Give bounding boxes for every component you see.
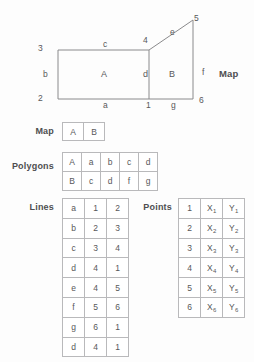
- table-row: A B: [63, 123, 105, 141]
- line-cell: 5: [107, 278, 129, 298]
- page-root: 3 2 4 5 1 6 c e b f a g A d B Map Map Po…: [0, 0, 254, 362]
- node-label-4: 4: [143, 36, 148, 45]
- point-x-cell: X6: [201, 297, 223, 317]
- point-x-cell: X5: [201, 278, 223, 298]
- table-row: a 1 2: [63, 199, 129, 219]
- point-x-cell: X3: [201, 238, 223, 258]
- polygon-cell: b: [101, 153, 120, 172]
- table-row: f 5 6: [63, 297, 129, 317]
- lines-table: a 1 2 b 2 3 c 3 4 d 4 1 e 4 5: [62, 198, 129, 357]
- line-cell: 1: [107, 337, 129, 357]
- line-cell: b: [63, 218, 85, 238]
- point-y-cell: Y4: [223, 258, 245, 278]
- line-cell: 3: [107, 218, 129, 238]
- line-cell: 6: [85, 317, 107, 337]
- line-cell: 4: [107, 238, 129, 258]
- point-x-cell: X1: [201, 199, 223, 219]
- table-row: c 3 4: [63, 238, 129, 258]
- edge-label-g: g: [171, 101, 176, 110]
- table-row: g 6 1: [63, 317, 129, 337]
- map-table: A B: [62, 122, 105, 141]
- edge-label-c: c: [103, 40, 107, 49]
- table-row: A a b c d: [63, 153, 158, 172]
- polygon-cell: a: [82, 153, 101, 172]
- point-id-cell: 4: [179, 258, 201, 278]
- line-cell: 1: [85, 199, 107, 219]
- point-y-cell: Y1: [223, 199, 245, 219]
- table-row: 3 X3 Y3: [179, 238, 245, 258]
- table-row: 6 X6 Y6: [179, 297, 245, 317]
- polygons-table-label: Polygons: [0, 161, 54, 171]
- map-diagram: 3 2 4 5 1 6 c e b f a g A d B Map: [0, 0, 254, 118]
- edge-label-a: a: [103, 101, 108, 110]
- polygon-cell: c: [82, 172, 101, 191]
- face-label-b: B: [169, 70, 175, 79]
- point-y-cell: Y6: [223, 297, 245, 317]
- table-row: 1 X1 Y1: [179, 199, 245, 219]
- point-y-cell: Y2: [223, 218, 245, 238]
- node-label-3: 3: [38, 44, 43, 53]
- table-row: d 4 1: [63, 258, 129, 278]
- line-cell: 5: [85, 297, 107, 317]
- line-cell: 1: [107, 317, 129, 337]
- point-id-cell: 2: [179, 218, 201, 238]
- point-x-cell: X4: [201, 258, 223, 278]
- line-cell: 4: [85, 278, 107, 298]
- polygons-table: A a b c d B c d f g: [62, 152, 158, 191]
- line-cell: 1: [107, 258, 129, 278]
- edge-label-f: f: [202, 68, 204, 77]
- table-row: d 4 1: [63, 337, 129, 357]
- edge-label-b: b: [43, 70, 48, 79]
- edge-label-e: e: [170, 28, 175, 37]
- point-id-cell: 6: [179, 297, 201, 317]
- table-row: 5 X5 Y5: [179, 278, 245, 298]
- node-label-1: 1: [146, 101, 151, 110]
- table-row: b 2 3: [63, 218, 129, 238]
- point-id-cell: 1: [179, 199, 201, 219]
- node-label-5: 5: [194, 14, 199, 23]
- line-cell: 3: [85, 238, 107, 258]
- line-cell: a: [63, 199, 85, 219]
- line-cell: 4: [85, 337, 107, 357]
- polygon-cell: A: [63, 153, 82, 172]
- map-cell: A: [63, 123, 84, 141]
- point-id-cell: 3: [179, 238, 201, 258]
- line-cell: e: [63, 278, 85, 298]
- line-cell: 4: [85, 258, 107, 278]
- table-row: B c d f g: [63, 172, 158, 191]
- polygon-cell: d: [101, 172, 120, 191]
- point-y-cell: Y5: [223, 278, 245, 298]
- face-label-d: d: [143, 70, 148, 79]
- line-cell: 6: [107, 297, 129, 317]
- map-diagram-title: Map: [219, 68, 239, 79]
- node-label-6: 6: [199, 96, 204, 105]
- polygon-cell: B: [63, 172, 82, 191]
- point-x-cell: X2: [201, 218, 223, 238]
- line-cell: d: [63, 337, 85, 357]
- line-cell: 2: [107, 199, 129, 219]
- points-table-label: Points: [124, 202, 172, 212]
- polygon-cell: d: [139, 153, 158, 172]
- table-row: 4 X4 Y4: [179, 258, 245, 278]
- map-table-label: Map: [6, 126, 54, 136]
- line-cell: c: [63, 238, 85, 258]
- line-cell: f: [63, 297, 85, 317]
- table-row: 2 X2 Y2: [179, 218, 245, 238]
- table-row: e 4 5: [63, 278, 129, 298]
- line-cell: 2: [85, 218, 107, 238]
- polygon-cell: f: [120, 172, 139, 191]
- face-label-a: A: [101, 70, 107, 79]
- node-label-2: 2: [38, 94, 43, 103]
- lines-table-label: Lines: [6, 202, 54, 212]
- line-cell: g: [63, 317, 85, 337]
- map-cell: B: [84, 123, 105, 141]
- point-id-cell: 5: [179, 278, 201, 298]
- point-y-cell: Y3: [223, 238, 245, 258]
- polygon-cell: g: [139, 172, 158, 191]
- polygon-cell: c: [120, 153, 139, 172]
- line-cell: d: [63, 258, 85, 278]
- points-table: 1 X1 Y1 2 X2 Y2 3 X3 Y3 4 X4 Y4 5 X5: [178, 198, 245, 318]
